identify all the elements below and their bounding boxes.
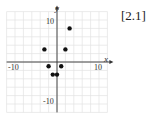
x-axis-label: x	[104, 54, 108, 64]
axes	[7, 6, 114, 113]
data-point	[55, 72, 59, 76]
y-axis-label: y	[55, 3, 59, 13]
y-tick-10: 10	[46, 17, 54, 26]
data-point	[63, 47, 67, 51]
data-point	[51, 72, 55, 76]
figure-label: [2.1]	[121, 8, 146, 24]
data-point	[42, 47, 46, 51]
y-tick-neg10: -10	[43, 97, 54, 106]
data-point	[67, 26, 71, 30]
data-point	[59, 64, 63, 68]
x-tick-10: 10	[94, 63, 102, 72]
x-tick-neg10: -10	[8, 63, 19, 72]
data-point	[46, 64, 50, 68]
